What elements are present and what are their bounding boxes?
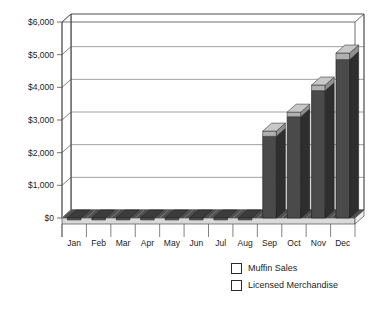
svg-text:$6,000: $6,000 — [28, 17, 54, 27]
svg-text:Feb: Feb — [91, 238, 106, 248]
legend-item-muffin-sales: Muffin Sales — [231, 261, 371, 276]
svg-text:Jun: Jun — [189, 238, 203, 248]
svg-text:Jan: Jan — [67, 238, 81, 248]
legend-label-muffin-sales: Muffin Sales — [248, 263, 297, 274]
svg-text:Apr: Apr — [141, 238, 154, 248]
svg-text:Nov: Nov — [311, 238, 327, 248]
svg-text:$0: $0 — [45, 213, 55, 223]
svg-text:Dec: Dec — [335, 238, 351, 248]
legend-swatch-licensed-merchandise — [231, 280, 242, 291]
svg-text:Oct: Oct — [287, 238, 301, 248]
svg-text:Sep: Sep — [262, 238, 277, 248]
svg-text:$5,000: $5,000 — [28, 50, 54, 60]
svg-text:$2,000: $2,000 — [28, 148, 54, 158]
svg-text:Mar: Mar — [116, 238, 131, 248]
bar-chart: $0$1,000$2,000$3,000$4,000$5,000$6,000Ja… — [0, 0, 373, 314]
svg-text:$4,000: $4,000 — [28, 82, 54, 92]
legend-swatch-muffin-sales — [231, 263, 242, 274]
chart-legend: Muffin Sales Licensed Merchandise — [231, 261, 371, 295]
legend-label-licensed-merchandise: Licensed Merchandise — [248, 280, 338, 291]
svg-text:Aug: Aug — [238, 238, 253, 248]
svg-text:$3,000: $3,000 — [28, 115, 54, 125]
svg-text:May: May — [164, 238, 181, 248]
svg-text:$1,000: $1,000 — [28, 180, 54, 190]
legend-item-licensed-merchandise: Licensed Merchandise — [231, 278, 371, 293]
svg-text:Jul: Jul — [215, 238, 226, 248]
